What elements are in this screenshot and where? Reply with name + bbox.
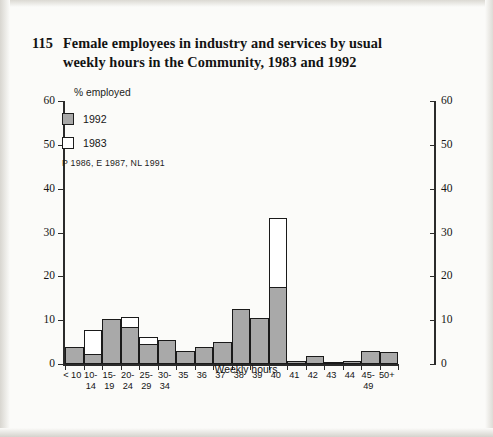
y-axis-label-left: 30 [33, 227, 55, 238]
x-axis-title: Weekly hours [30, 364, 462, 375]
y-axis-tick-left [58, 233, 64, 234]
legend-label-1983: 1983 [83, 137, 107, 149]
bar-1992 [250, 318, 269, 364]
bar-1992 [195, 347, 214, 364]
bar-1992 [84, 354, 103, 364]
legend-item-1992: 1992 [62, 110, 165, 127]
scan-edge-right [485, 0, 493, 437]
y-axis-caption: % employed [74, 87, 131, 98]
y-axis-tick-left [58, 320, 64, 321]
y-axis-tick-right [430, 276, 436, 277]
scan-edge-top [0, 0, 493, 7]
legend-swatch-open-icon [62, 137, 74, 149]
scan-edge-left [0, 0, 10, 437]
y-axis-label-left: 60 [33, 95, 55, 106]
bar-1992 [121, 327, 140, 364]
y-axis-tick-right [430, 233, 436, 234]
y-axis-tick-right [430, 189, 436, 190]
y-axis-label-left: 40 [33, 183, 55, 194]
y-axis-label-left: 20 [33, 270, 55, 281]
bar-1992 [139, 344, 158, 364]
chart-number: 115 [32, 34, 63, 53]
scan-edge-bottom [0, 428, 493, 437]
y-axis-label-left: 10 [33, 314, 55, 325]
bar-1992 [306, 356, 325, 364]
y-axis-label-right: 10 [441, 314, 463, 325]
bar-1992 [380, 352, 399, 364]
y-axis-label-left: 50 [33, 139, 55, 150]
legend-swatch-filled-icon [62, 113, 74, 125]
y-axis-label-right: 50 [441, 139, 463, 150]
bar-1992 [158, 340, 177, 364]
bar-1992 [102, 319, 121, 364]
y-axis-tick-left [58, 189, 64, 190]
chart-title-line1: Female employees in industry and service… [63, 35, 382, 51]
y-axis-label-right: 40 [441, 183, 463, 194]
bar-1992 [361, 351, 380, 364]
bar-1992 [269, 287, 288, 364]
chart-title: 115Female employees in industry and serv… [32, 34, 452, 72]
y-axis-label-right: 20 [441, 270, 463, 281]
y-axis-tick-left [58, 276, 64, 277]
bar-1992 [213, 342, 232, 364]
chart-page: 115Female employees in industry and serv… [0, 0, 493, 437]
y-axis-right [434, 101, 436, 364]
legend-footnote: P 1986, E 1987, NL 1991 [62, 158, 165, 168]
y-axis-label-right: 60 [441, 95, 463, 106]
y-axis-tick-right [430, 145, 436, 146]
chart-legend: 1992 1983 P 1986, E 1987, NL 1991 [62, 110, 165, 168]
bar-1992 [176, 351, 195, 364]
legend-label-1992: 1992 [83, 113, 107, 125]
y-axis-tick-right [430, 101, 436, 102]
bar-1992 [232, 309, 251, 364]
y-axis-label-right: 30 [441, 227, 463, 238]
chart-title-line2: weekly hours in the Community, 1983 and … [63, 53, 452, 72]
y-axis-tick-right [430, 320, 436, 321]
bar-1992 [65, 347, 84, 364]
legend-item-1983: 1983 [62, 134, 165, 151]
y-axis-tick-left [58, 101, 64, 102]
